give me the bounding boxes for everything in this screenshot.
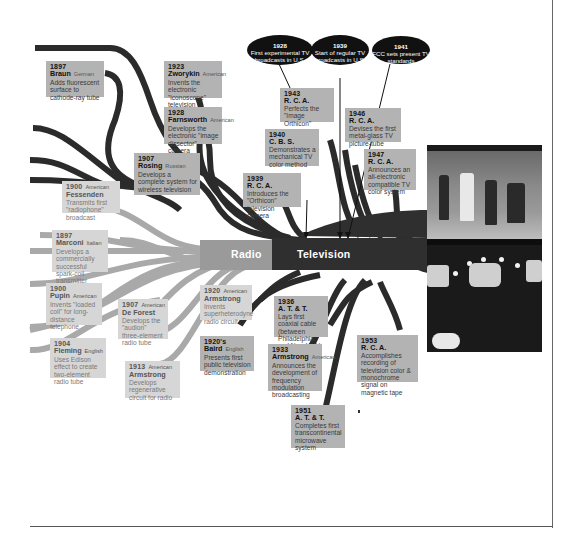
- card-description: Announces the development of frequency m…: [272, 362, 319, 399]
- card-name: Pupin: [50, 291, 70, 300]
- milestone-oval-1939: 1939 Start of regular TV broadcasts in U…: [311, 35, 369, 65]
- milestone-oval-1928: 1928 First experimental TV broadcasts in…: [247, 35, 313, 65]
- event-card-1933-armstrong: 1933 ArmstrongAmerican Announces the dev…: [268, 344, 322, 391]
- page-vertical-rule: [552, 0, 553, 528]
- event-card-1907-deforest: 1907American De Forest Develops the "aud…: [118, 299, 168, 339]
- card-name: Rosing: [138, 161, 162, 170]
- television-studio-photo: [427, 145, 542, 352]
- card-name: R. C. A.: [361, 344, 415, 351]
- card-name: Marconi: [56, 238, 84, 247]
- card-name: Fleming: [54, 346, 82, 355]
- card-description: Presents first public television demonst…: [204, 354, 251, 376]
- event-card-1920-armstrong: 1920American Armstrong Invents superhete…: [200, 285, 252, 320]
- card-nationality: American: [203, 71, 227, 77]
- card-nationality: American: [223, 288, 247, 294]
- stray-mark: [358, 410, 360, 413]
- event-card-1900-fessenden: 1900American Fessenden Transmits first "…: [62, 181, 120, 213]
- card-nationality: English: [225, 346, 243, 352]
- card-description: Develops a complete system for wireless …: [138, 171, 197, 193]
- event-card-1936-att: 1936 A. T. & T. Lays first coaxial cable…: [274, 296, 328, 337]
- photo-monitor: [427, 265, 449, 287]
- card-nationality: American: [85, 184, 109, 190]
- card-description: Uses Edison effect to create two-element…: [54, 356, 103, 386]
- card-name: A. T. & T.: [278, 305, 325, 312]
- event-card-1946-rca: 1946 R. C. A. Devises the first metal-gl…: [345, 108, 401, 142]
- event-card-1947-rca: 1947 R. C. A. Announces an all-electroni…: [364, 149, 416, 190]
- card-name: R. C. A.: [368, 158, 413, 165]
- card-year: 1913: [129, 363, 145, 370]
- card-name: Braun: [50, 69, 71, 78]
- photo-light: [515, 263, 520, 268]
- radio-trunk-label: Radio: [231, 248, 262, 260]
- card-nationality: American: [141, 302, 165, 308]
- card-description: Demonstrates a mechanical TV color metho…: [269, 146, 316, 168]
- card-nationality: English: [85, 348, 103, 354]
- card-description: Develops the "audion" three-element radi…: [122, 317, 165, 347]
- event-card-1907-rosing: 1907 RosingRussian Develops a complete s…: [134, 153, 200, 195]
- card-name: Baird: [204, 344, 222, 353]
- card-nationality: American: [312, 354, 336, 360]
- event-card-1920s-baird: 1920's BairdEnglish Presents first publi…: [200, 336, 254, 371]
- event-card-1904-fleming: 1904 FlemingEnglish Uses Edison effect t…: [50, 338, 106, 378]
- oval-year: 1941: [372, 43, 430, 50]
- card-description: Invents "loaded coil" for long-distance …: [50, 301, 99, 331]
- card-description: Completes first transcontinental microwa…: [295, 422, 342, 452]
- oval-year: 1939: [311, 42, 369, 49]
- event-card-1939-rca: 1939 R. C. A. Introduces the "Orthicon" …: [243, 173, 301, 207]
- photo-monitor-main: [469, 263, 501, 287]
- card-description: Develops a commercially successful spark…: [56, 248, 105, 285]
- card-year: 1920: [204, 287, 220, 294]
- event-card-1953-rca: 1953 R. C. A. Accomplishes recording of …: [357, 335, 418, 382]
- card-description: Develops regenerative circuit for radio: [129, 379, 177, 401]
- oval-year: 1928: [247, 42, 313, 49]
- card-name: Farnsworth: [168, 115, 207, 124]
- card-description: Adds fluorescent surface to cathode-ray …: [50, 79, 101, 101]
- photo-light: [453, 271, 458, 276]
- event-card-1900-pupin: 1900 PupinAmerican Invents "loaded coil"…: [46, 283, 102, 325]
- card-name: Armstrong: [129, 371, 177, 378]
- photo-light: [499, 257, 504, 262]
- card-description: Accomplishes recording of television col…: [361, 352, 415, 396]
- card-description: Announces an all-electronic compatible T…: [368, 166, 413, 196]
- event-card-1951-att: 1951 A. T. & T. Completes first transcon…: [291, 405, 345, 448]
- card-year: 1900: [66, 183, 82, 190]
- card-name: De Forest: [122, 309, 165, 316]
- card-nationality: American: [73, 293, 97, 299]
- event-card-1928-farnsworth: 1928 FarnsworthAmerican Develops the ele…: [164, 107, 222, 144]
- card-description: Transmits first "radiophone" broadcast: [66, 199, 117, 221]
- card-description: Invents superheterodyne radio circuit: [204, 303, 249, 325]
- photo-divider: [427, 239, 542, 245]
- card-name: R. C. A.: [284, 97, 331, 104]
- card-name: R. C. A.: [247, 182, 298, 189]
- evolution-diagram: Radio Television 1928 First experimental…: [0, 0, 574, 539]
- photo-light: [481, 257, 486, 262]
- card-year: 1907: [122, 301, 138, 308]
- card-description: Develops the electronic "image dissector…: [168, 125, 219, 155]
- photo-hand: [432, 333, 460, 349]
- event-card-1913-armstrong: 1913American Armstrong Develops regenera…: [125, 361, 180, 398]
- card-description: Devises the first metal-glass TV picture…: [349, 125, 398, 147]
- milestone-oval-1941: 1941 FCC sets present TV standards: [372, 36, 430, 64]
- card-name: A. T. & T.: [295, 414, 342, 421]
- card-name: Armstrong: [204, 295, 249, 302]
- event-card-1943-rca: 1943 R. C. A. Perfects the "Image Orthic…: [280, 88, 334, 122]
- card-description: Introduces the "Orthicon" television cam…: [247, 190, 298, 220]
- card-nationality: German: [74, 71, 94, 77]
- event-card-1940-cbs: 1940 C. B. S. Demonstrates a mechanical …: [265, 129, 319, 166]
- photo-figure: [439, 175, 449, 220]
- photo-figure: [485, 180, 497, 225]
- card-nationality: Russian: [165, 163, 185, 169]
- card-nationality: American: [148, 364, 172, 370]
- oval-text: First experimental TV broadcasts in U.S.: [251, 49, 310, 63]
- oval-text: Start of regular TV broadcasts in U.S.: [315, 49, 366, 63]
- page-bottom-rule: [30, 526, 553, 527]
- event-card-1897-marconi: 1897 MarconiItalian Develops a commercia…: [52, 230, 108, 272]
- card-name: C. B. S.: [269, 138, 316, 145]
- card-name: Armstrong: [272, 352, 309, 361]
- card-name: Zworykin: [168, 69, 200, 78]
- photo-figure: [460, 173, 474, 221]
- card-name: Fessenden: [66, 191, 117, 198]
- card-nationality: American: [210, 117, 234, 123]
- photo-monitor: [526, 260, 542, 282]
- event-card-1923-zworykin: 1923 ZworykinAmerican Invents the electr…: [164, 61, 222, 98]
